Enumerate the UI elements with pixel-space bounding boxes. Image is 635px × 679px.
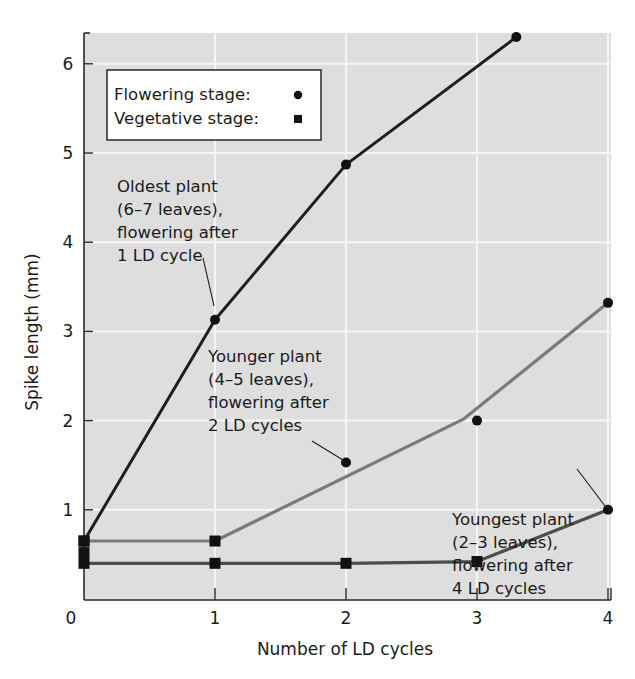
x-tick-label: 2 <box>341 608 352 628</box>
square-marker <box>79 558 90 569</box>
x-axis-title: Number of LD cycles <box>257 639 433 659</box>
circle-marker <box>472 416 482 426</box>
x-tick-label: 4 <box>603 608 614 628</box>
x-tick-label: 1 <box>210 608 221 628</box>
square-marker <box>210 558 221 569</box>
annotation-line: Youngest plant <box>451 510 574 529</box>
annotation-line: Younger plant <box>207 347 322 366</box>
annotation-line: flowering after <box>117 223 238 242</box>
circle-marker <box>341 160 351 170</box>
legend-square-icon <box>294 115 302 123</box>
circle-marker <box>210 315 220 325</box>
legend-label: Vegetative stage: <box>114 109 259 128</box>
annotation-line: (4–5 leaves), <box>208 370 314 389</box>
y-tick-label: 2 <box>63 411 74 431</box>
y-tick-label: 5 <box>63 143 74 163</box>
legend-circle-icon <box>294 91 302 99</box>
square-marker <box>341 558 352 569</box>
annotation-line: flowering after <box>208 393 329 412</box>
legend-box <box>107 70 321 140</box>
legend: Flowering stage:Vegetative stage: <box>107 70 321 140</box>
x-tick-label: 0 <box>66 608 77 628</box>
y-tick-label: 6 <box>63 54 74 74</box>
circle-marker <box>603 505 613 515</box>
circle-marker <box>341 458 351 468</box>
line-chart: 12345601234 Oldest plant(6–7 leaves),flo… <box>0 0 635 679</box>
annotation-line: (2–3 leaves), <box>452 533 558 552</box>
circle-marker <box>603 298 613 308</box>
annotation-line: (6–7 leaves), <box>117 200 223 219</box>
annotation-line: 4 LD cycles <box>452 579 546 598</box>
square-marker <box>210 536 221 547</box>
annotation-line: 1 LD cycle <box>117 246 203 265</box>
circle-marker <box>511 32 521 42</box>
y-tick-label: 1 <box>63 500 74 520</box>
square-marker <box>79 536 90 547</box>
square-marker <box>79 547 90 558</box>
legend-label: Flowering stage: <box>114 85 251 104</box>
annotation-line: flowering after <box>452 556 573 575</box>
annotation-line: 2 LD cycles <box>208 416 302 435</box>
y-axis-title: Spike length (mm) <box>22 253 42 410</box>
annotation-line: Oldest plant <box>117 177 218 196</box>
x-tick-label: 3 <box>472 608 483 628</box>
y-tick-label: 3 <box>63 321 74 341</box>
y-tick-label: 4 <box>63 232 74 252</box>
